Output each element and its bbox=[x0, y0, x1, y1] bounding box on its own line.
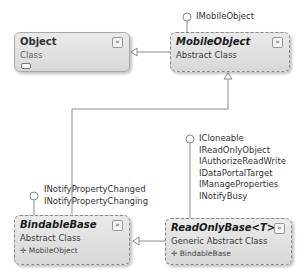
class-box-mobileobject[interactable]: MobileObject Abstract Class » bbox=[170, 32, 290, 72]
interface-label: IMobileObject bbox=[196, 11, 254, 23]
class-box-object[interactable]: Object Class » bbox=[14, 32, 130, 72]
lollipop-inotifypropertychanged bbox=[30, 192, 38, 200]
class-name: BindableBase bbox=[20, 219, 97, 230]
interface-label: IDataPortalTarget bbox=[199, 168, 286, 180]
interface-label: INotifyBusy bbox=[199, 191, 286, 203]
class-box-readonlybase[interactable]: ReadOnlyBase<T> Generic Abstract Class ✛… bbox=[165, 218, 292, 265]
inheritance-arrow-mobileobject bbox=[224, 73, 232, 79]
interface-label: IManageProperties bbox=[199, 179, 286, 191]
interface-label: ICloneable bbox=[199, 133, 286, 145]
expand-collapse-icon[interactable]: » bbox=[112, 37, 123, 48]
base-type: ✛ MobileObject bbox=[20, 246, 78, 255]
lollipop-imobileobject bbox=[183, 13, 191, 21]
class-name: ReadOnlyBase<T> bbox=[171, 222, 275, 233]
interface-list-readonlybase: ICloneable IReadOnlyObject IAuthorizeRea… bbox=[199, 133, 286, 202]
class-kind: Abstract Class bbox=[176, 50, 237, 60]
base-type: ✛ BindableBase bbox=[171, 249, 231, 258]
expand-collapse-icon[interactable]: » bbox=[274, 223, 285, 234]
class-name: MobileObject bbox=[176, 36, 250, 47]
expand-collapse-icon[interactable]: » bbox=[272, 37, 283, 48]
inherit-icon: ✛ bbox=[171, 249, 177, 258]
interface-label: IReadOnlyObject bbox=[199, 145, 286, 157]
interface-label: IAuthorizeReadWrite bbox=[199, 156, 286, 168]
interface-label: INotifyPropertyChanged bbox=[44, 184, 148, 196]
expand-collapse-icon[interactable]: » bbox=[112, 220, 123, 231]
class-icon bbox=[21, 63, 31, 69]
interface-label: INotifyPropertyChanging bbox=[44, 196, 148, 208]
lollipop-icloneable bbox=[186, 135, 194, 143]
class-box-bindablebase[interactable]: BindableBase Abstract Class ✛ MobileObje… bbox=[14, 215, 130, 265]
class-kind: Class bbox=[20, 50, 42, 60]
inheritance-arrow-bindablebase bbox=[133, 237, 139, 245]
inherit-icon: ✛ bbox=[20, 246, 26, 255]
class-kind: Generic Abstract Class bbox=[171, 236, 267, 246]
interface-list-bindablebase: INotifyPropertyChanged INotifyPropertyCh… bbox=[44, 184, 148, 207]
class-kind: Abstract Class bbox=[20, 233, 81, 243]
inheritance-arrow-object bbox=[131, 48, 137, 56]
class-name: Object bbox=[20, 36, 57, 47]
